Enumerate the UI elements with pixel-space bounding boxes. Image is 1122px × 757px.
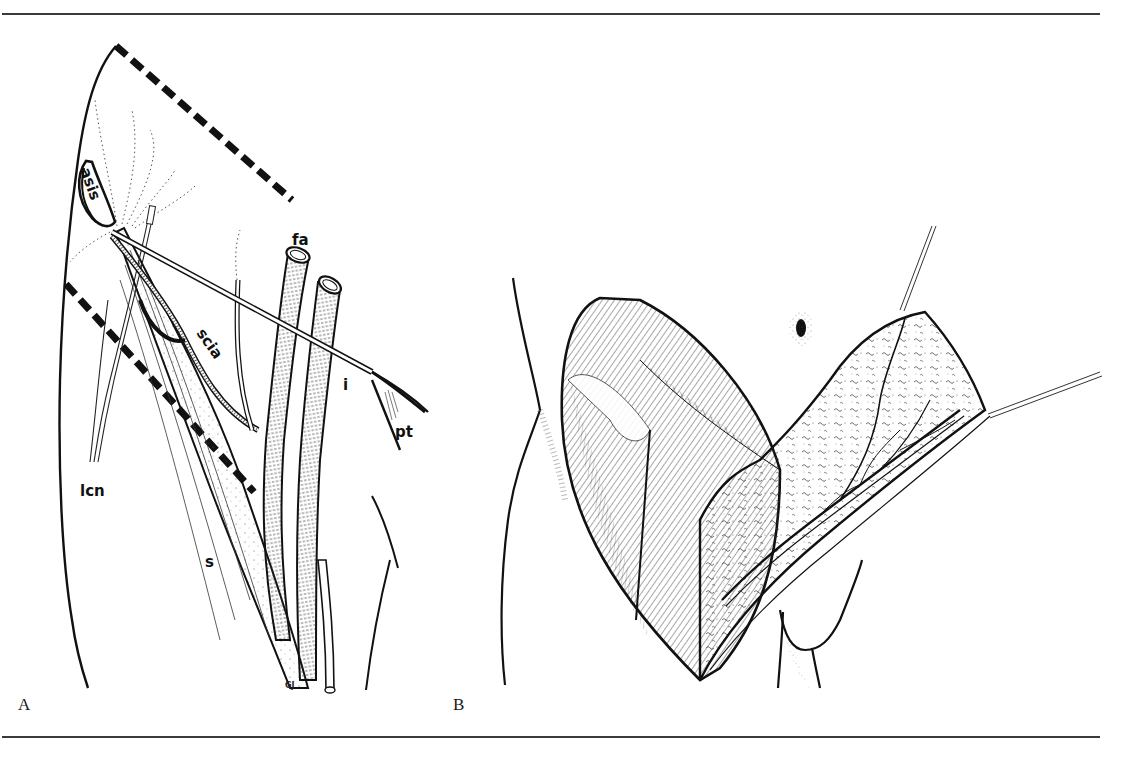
body-contour-b — [502, 278, 540, 685]
artist-signature: GJ — [285, 681, 295, 690]
panel-letter-a: A — [18, 695, 30, 715]
label-lcn: lcn — [80, 482, 105, 500]
thigh-contour — [60, 46, 117, 688]
medial-thigh-contour — [372, 496, 398, 568]
pubic-contour — [780, 560, 862, 650]
label-s: s — [205, 553, 214, 571]
flap-outline-upper — [116, 46, 292, 200]
figure-illustration: asis fa scia i pt lcn s GJ — [0, 0, 1122, 757]
label-i: i — [343, 376, 348, 394]
label-fa: fa — [292, 231, 309, 249]
panel-a-drawing: asis fa scia i pt lcn s GJ — [60, 46, 429, 693]
medial-thigh-contour-2 — [366, 560, 390, 690]
label-scia: scia — [193, 325, 227, 362]
panel-letter-b: B — [453, 695, 464, 715]
panel-b-drawing — [502, 226, 1102, 690]
label-pt: pt — [395, 423, 413, 441]
